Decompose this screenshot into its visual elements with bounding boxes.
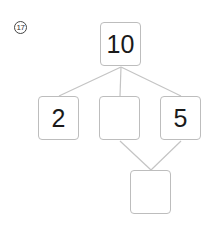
right-box: 5 — [160, 96, 201, 140]
top-box: 10 — [100, 22, 141, 66]
left-box: 2 — [38, 96, 79, 140]
middle-answer-box[interactable] — [99, 96, 140, 140]
bottom-answer-box[interactable] — [130, 170, 171, 214]
